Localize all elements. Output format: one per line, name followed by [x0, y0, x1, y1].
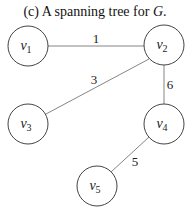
edge-v2-v3 — [46, 59, 149, 114]
edge-weight-v4-v5: 5 — [132, 154, 139, 169]
node-v3: v3 — [8, 104, 48, 144]
edge-weight-v2-v4: 6 — [167, 77, 174, 92]
figure-caption: (c) A spanning tree for G. — [23, 4, 166, 20]
node-v4: v4 — [144, 104, 184, 144]
spanning-tree-diagram: (c) A spanning tree for G. 1 3 6 5 v1 v2… — [0, 0, 191, 211]
edge-v4-v5 — [111, 137, 149, 172]
node-v1: v1 — [8, 26, 48, 66]
node-v2: v2 — [144, 25, 184, 65]
edges — [46, 46, 164, 172]
edge-weight-v1-v2: 1 — [93, 31, 100, 46]
node-v5: v5 — [77, 166, 117, 206]
edge-weight-v2-v3: 3 — [91, 72, 98, 87]
